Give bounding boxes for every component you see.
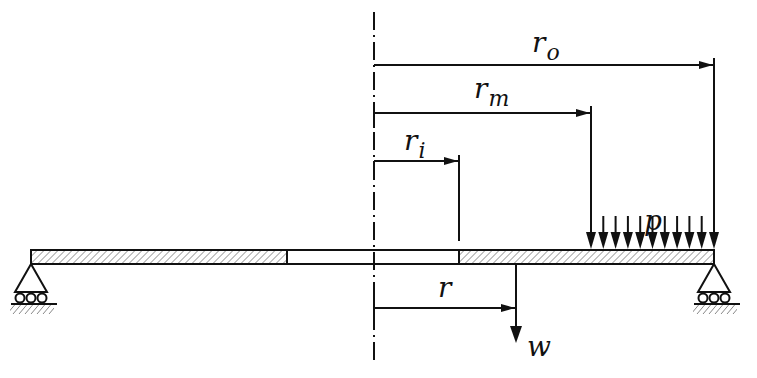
load-arrow-head [586,232,596,249]
svg-text:ri: ri [404,124,425,163]
deflection-w: w [510,264,551,363]
label-r-outer: r [532,26,547,59]
label-r-inner: r [404,124,419,157]
label-r: r [438,271,453,304]
label-r-mid: r [474,72,489,105]
load-arrow-head [709,232,719,249]
dimension-r-inner: ri [374,124,459,241]
left-roller-support [10,264,57,314]
load-arrow-head [684,232,694,249]
distributed-load-p: p [586,204,719,249]
label-pressure: p [644,204,662,237]
right-roller-support [693,264,740,314]
load-arrow-head [598,232,608,249]
plate [31,250,714,264]
load-arrow-head [623,232,633,249]
annular-plate-diagram: ro rm ri p r w [0,0,757,378]
load-arrow-head [672,232,682,249]
load-arrow-head [697,232,707,249]
svg-text:rm: rm [474,72,509,111]
dimension-r-general: r [374,271,515,316]
dimension-r-outer: ro [374,26,714,225]
label-w: w [527,330,551,363]
load-arrow-head [611,232,621,249]
svg-text:ro: ro [532,26,560,65]
